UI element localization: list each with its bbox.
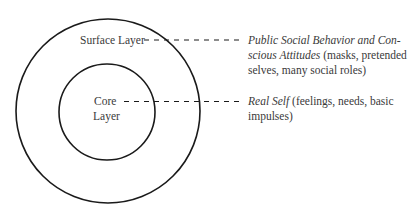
- core-layer-label-line1: Core: [94, 94, 116, 109]
- core-desc-line-2: impulses): [248, 109, 394, 124]
- core-desc-italic-1: Real Self: [248, 95, 289, 107]
- core-layer-label-line2: Layer: [93, 109, 120, 124]
- surface-desc-line-3: selves, many social roles): [248, 63, 407, 78]
- surface-layer-label: Surface Layer: [80, 33, 145, 48]
- surface-desc-rest-2: (masks, pretended: [320, 49, 407, 61]
- surface-desc-italic-2: scious Attitudes: [248, 49, 320, 61]
- surface-desc-italic-1: Public Social Behavior and Con-: [248, 34, 401, 46]
- surface-layer-description: Public Social Behavior and Con- scious A…: [248, 33, 407, 78]
- core-layer-description: Real Self (feelings, needs, basic impuls…: [248, 94, 394, 124]
- core-desc-rest-1: (feelings, needs, basic: [289, 95, 393, 107]
